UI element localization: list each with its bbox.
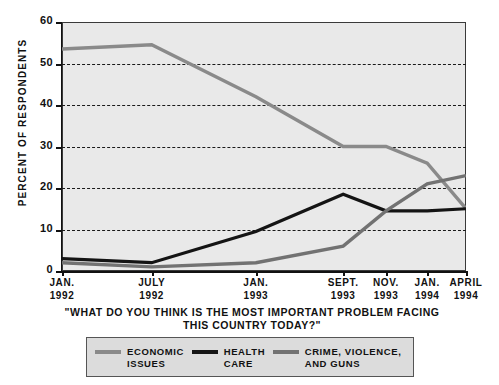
- legend-label-line-2: CARE: [224, 358, 265, 370]
- legend-swatch-1: [192, 350, 218, 354]
- y-tick-label: 40: [40, 97, 53, 109]
- x-tick-mark-2: [256, 271, 258, 276]
- chart-caption: "WHAT DO YOU THINK IS THE MOST IMPORTANT…: [52, 306, 452, 332]
- x-tick-label-year: 1993: [216, 290, 296, 303]
- x-tick-mark-5: [427, 271, 429, 276]
- series-line-1: [62, 194, 466, 262]
- legend-label-0: ECONOMICISSUES: [127, 346, 184, 369]
- chart-figure: PERCENT OF RESPONDENTS 0102030405060 JAN…: [0, 0, 499, 385]
- series-svg: [62, 22, 466, 271]
- caption-line-1: "WHAT DO YOU THINK IS THE MOST IMPORTANT…: [65, 306, 394, 318]
- x-tick-label-year: 1992: [22, 290, 102, 303]
- y-tick-label: 20: [40, 180, 53, 192]
- y-tick-label: 10: [40, 222, 53, 234]
- x-tick-label-month: APRIL: [450, 277, 483, 288]
- x-tick-label-year: 1994: [426, 290, 499, 303]
- x-tick-label-month: JAN.: [49, 277, 74, 288]
- x-tick-label-6: APRIL1994: [426, 277, 499, 302]
- x-tick-label-year: 1992: [112, 290, 192, 303]
- x-tick-mark-1: [152, 271, 154, 276]
- legend-item-2[interactable]: CRIME, VIOLENCE,AND GUNS: [271, 346, 407, 369]
- x-tick-mark-3: [343, 271, 345, 276]
- x-tick-label-2: JAN.1993: [216, 277, 296, 302]
- plot-area: [62, 22, 466, 271]
- legend-swatch-2: [273, 350, 299, 354]
- x-tick-label-month: JAN.: [243, 277, 268, 288]
- y-axis: PERCENT OF RESPONDENTS 0102030405060: [0, 22, 62, 271]
- x-tick-mark-6: [466, 271, 468, 276]
- legend-label-line-1: ECONOMIC: [127, 346, 184, 357]
- x-tick-mark-4: [386, 271, 388, 276]
- series-line-2: [62, 176, 466, 267]
- x-axis: JAN.1992JULY1992JAN.1993SEPT.1993NOV.199…: [0, 271, 499, 305]
- x-tick-label-1: JULY1992: [112, 277, 192, 302]
- y-tick-label: 60: [40, 14, 53, 26]
- legend-label-line-2: AND GUNS: [305, 358, 402, 370]
- chart-legend: ECONOMICISSUESHEALTHCARECRIME, VIOLENCE,…: [86, 337, 414, 377]
- y-tick-label: 30: [40, 139, 53, 151]
- x-tick-label-0: JAN.1992: [22, 277, 102, 302]
- y-axis-title: PERCENT OF RESPONDENTS: [17, 23, 28, 223]
- legend-item-0[interactable]: ECONOMICISSUES: [93, 346, 190, 369]
- legend-label-2: CRIME, VIOLENCE,AND GUNS: [305, 346, 402, 369]
- legend-item-1[interactable]: HEALTHCARE: [190, 346, 271, 369]
- legend-label-line-1: HEALTH: [224, 346, 265, 357]
- legend-swatch-0: [95, 350, 121, 354]
- series-line-0: [62, 45, 466, 209]
- x-tick-label-month: JULY: [138, 277, 165, 288]
- legend-label-line-1: CRIME, VIOLENCE,: [305, 346, 402, 357]
- legend-label-line-2: ISSUES: [127, 358, 184, 370]
- x-tick-mark-0: [62, 271, 64, 276]
- y-tick-label: 50: [40, 56, 53, 68]
- data-lines: [62, 22, 466, 271]
- legend-label-1: HEALTHCARE: [224, 346, 265, 369]
